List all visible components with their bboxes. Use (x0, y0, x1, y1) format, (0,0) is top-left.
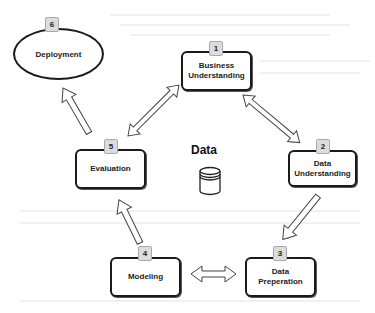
stage-business-understanding-badge: 1 (209, 41, 223, 56)
stage-data-preparation-line2: Preperation (258, 277, 302, 287)
stage-evaluation-label: Evaluation (90, 164, 130, 174)
stage-data-understanding-badge: 2 (316, 139, 330, 154)
stage-data-preparation: Data Preperation (245, 257, 316, 297)
data-label: Data (191, 143, 217, 157)
stage-evaluation: Evaluation (75, 149, 146, 189)
stage-deployment-badge: 6 (45, 17, 59, 32)
stage-data-understanding-line1: Data (314, 159, 331, 169)
stage-business-understanding: Business Understanding (181, 51, 252, 91)
stage-business-understanding-line1: Business (199, 61, 235, 71)
arrow-evaluation-to-deployment (56, 84, 96, 137)
arrow-preparation-to-modeling (191, 266, 236, 282)
database-cylinder-icon (198, 166, 222, 196)
stage-deployment-label: Deployment (36, 50, 82, 59)
stage-deployment: Deployment (13, 28, 104, 80)
stage-data-understanding: Data Understanding (288, 150, 357, 187)
stage-modeling-badge: 4 (138, 246, 152, 261)
stage-evaluation-badge: 5 (104, 139, 118, 154)
arrow-data-understanding-to-preparation (277, 191, 325, 245)
arrow-business-to-data-understanding (239, 90, 305, 148)
stage-data-understanding-line2: Understanding (294, 169, 350, 179)
arrow-evaluation-to-business (123, 80, 184, 141)
stage-data-preparation-badge: 3 (273, 246, 287, 261)
stage-modeling: Modeling (110, 257, 181, 297)
stage-modeling-label: Modeling (128, 272, 163, 282)
stage-business-understanding-line2: Understanding (188, 71, 244, 81)
stage-data-preparation-line1: Data (272, 267, 289, 277)
arrow-modeling-to-evaluation (112, 196, 147, 246)
